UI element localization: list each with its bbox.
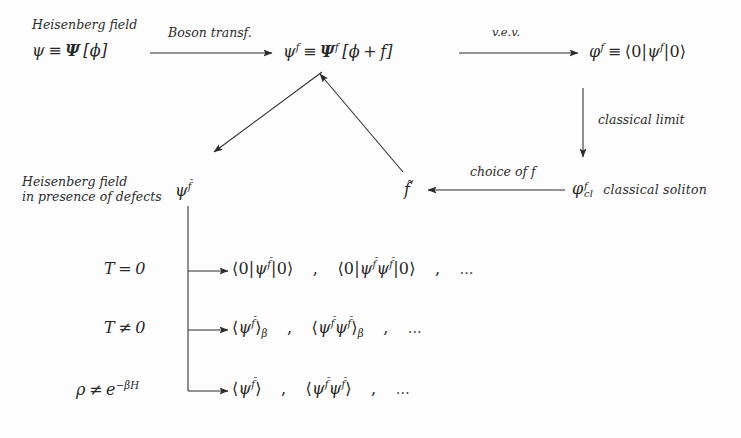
row-1-separator-2: , bbox=[383, 318, 388, 337]
arrow-layer bbox=[0, 0, 741, 438]
row-0-ellipsis: … bbox=[460, 261, 476, 277]
row-0-expressions: ⟨0|ψf̃|0⟩ , ⟨0|ψf̃ψf̃|0⟩ , … bbox=[232, 259, 475, 279]
arrow-ftilde-to-psi-f bbox=[320, 74, 403, 172]
f-tilde-expression: f̃ bbox=[404, 180, 410, 199]
row-0-expression-2: ⟨0|ψf̃ψf̃|0⟩ bbox=[337, 259, 415, 278]
defects-caption: Heisenberg field in presence of defects bbox=[22, 175, 162, 205]
node-f-tilde: f̃ bbox=[404, 181, 410, 199]
node-phi-f: φf ≡ ⟨0|ψf|0⟩ bbox=[589, 42, 686, 62]
label-classical-limit: classical limit bbox=[598, 113, 685, 127]
row-1-expression-2: ⟨ψf̃ψf̃⟩β bbox=[312, 318, 364, 337]
label-boson-transf: Boson transf. bbox=[168, 26, 252, 40]
diagram-canvas: Heisenberg field ψ ≡ Ψ [ϕ] Boson transf.… bbox=[0, 0, 741, 438]
classical-soliton-label: classical soliton bbox=[603, 182, 707, 197]
node-psi-ftilde: ψf̃ bbox=[175, 181, 192, 201]
defects-caption-line-1: Heisenberg field bbox=[22, 175, 162, 190]
phi-cl-expression: φfcl bbox=[572, 179, 593, 198]
node-phi-cl: φfcl classical soliton bbox=[572, 180, 707, 199]
row-1-ellipsis: … bbox=[408, 320, 424, 336]
phi-f-expression: φf ≡ ⟨0|ψf|0⟩ bbox=[589, 42, 686, 61]
psi-f-expression: ψf ≡ Ψf [ϕ + f] bbox=[283, 42, 393, 61]
row-2-separator-2: , bbox=[371, 379, 376, 398]
label-vev: v.e.v. bbox=[492, 26, 520, 39]
psi-ftilde-expression: ψf̃ bbox=[175, 181, 192, 200]
row-2-condition-text: ρ ≠ e−βH bbox=[76, 380, 139, 399]
row-1-condition-text: T ≠ 0 bbox=[104, 318, 146, 337]
row-2-ellipsis: … bbox=[396, 381, 412, 397]
heisenberg-field-expression: ψ ≡ Ψ [ϕ] bbox=[32, 41, 107, 60]
row-0-condition-text: T = 0 bbox=[104, 259, 146, 278]
arrow-psi-f-to-psi-ftilde bbox=[214, 72, 322, 152]
row-2-expression-1: ⟨ψf̃⟩ bbox=[232, 379, 262, 398]
row-2-separator-1: , bbox=[281, 379, 286, 398]
row-0-expression-1: ⟨0|ψf̃|0⟩ bbox=[232, 259, 294, 278]
row-condition-rho: ρ ≠ e−βH bbox=[76, 380, 139, 400]
row-0-separator-2: , bbox=[435, 259, 440, 278]
row-0-separator-1: , bbox=[313, 259, 318, 278]
node-psi-f: ψf ≡ Ψf [ϕ + f] bbox=[283, 42, 393, 62]
node-heisenberg-field: ψ ≡ Ψ [ϕ] bbox=[32, 42, 107, 60]
heisenberg-field-caption: Heisenberg field bbox=[32, 18, 137, 33]
row-1-expressions: ⟨ψf̃⟩β , ⟨ψf̃ψf̃⟩β , … bbox=[232, 318, 423, 340]
row-1-separator-1: , bbox=[287, 318, 292, 337]
label-choice-of-f: choice of f bbox=[470, 165, 536, 179]
row-1-expression-1: ⟨ψf̃⟩β bbox=[232, 318, 268, 337]
row-2-expression-2: ⟨ψf̃ψf̃⟩ bbox=[305, 379, 351, 398]
row-2-expressions: ⟨ψf̃⟩ , ⟨ψf̃ψf̃⟩ , … bbox=[232, 379, 411, 399]
row-condition-t-not-equals-0: T ≠ 0 bbox=[104, 319, 146, 337]
defects-caption-line-2: in presence of defects bbox=[22, 190, 162, 205]
row-condition-t-equals-0: T = 0 bbox=[104, 260, 146, 278]
